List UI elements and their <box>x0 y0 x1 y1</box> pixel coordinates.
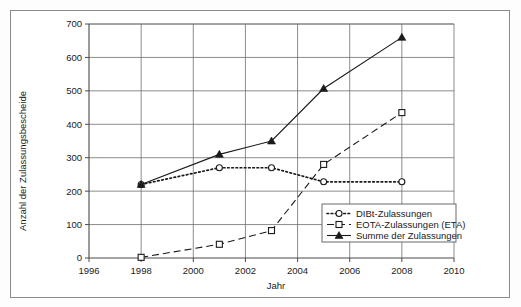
data-point-marker <box>269 165 275 171</box>
y-axis-title: Anzahl der Zulassungsbescheide <box>17 91 28 231</box>
x-axis-tick-labels: 19961998200020022004200620082010 <box>78 265 464 276</box>
x-axis-title: Jahr <box>267 280 285 291</box>
data-point-marker <box>216 165 222 171</box>
legend-entry-label: EOTA-Zulassungen (ETA) <box>356 219 465 230</box>
y-axis-tick-label: 300 <box>66 152 82 163</box>
figure-frame: 0100200300400500600700 19961998200020022… <box>10 10 510 298</box>
data-point-marker <box>321 161 327 167</box>
data-point-marker <box>321 179 327 185</box>
y-axis-tick-label: 100 <box>66 219 82 230</box>
data-point-marker <box>320 85 328 92</box>
series-dibt-zulassungen <box>138 165 405 188</box>
data-point-marker <box>216 241 222 247</box>
y-axis-tick-label: 0 <box>77 252 82 263</box>
legend-marker-icon <box>336 211 342 217</box>
x-axis-tick-label: 1996 <box>78 265 99 276</box>
x-axis-tick-label: 2004 <box>287 265 308 276</box>
y-axis-tick-label: 600 <box>66 52 82 63</box>
x-axis-tick-label: 2002 <box>235 265 256 276</box>
y-axis-tick-label: 700 <box>66 18 82 29</box>
line-chart: 0100200300400500600700 19961998200020022… <box>11 11 508 296</box>
data-point-marker <box>138 254 144 260</box>
x-axis-tick-label: 2008 <box>391 265 412 276</box>
y-axis-tick-label: 200 <box>66 186 82 197</box>
chart-legend[interactable]: DIBt-ZulassungenEOTA-Zulassungen (ETA)Su… <box>322 204 465 242</box>
y-axis-tick-labels: 0100200300400500600700 <box>66 18 82 263</box>
x-axis-tick-label: 2010 <box>443 265 464 276</box>
data-point-marker <box>269 228 275 234</box>
legend-entry-label: DIBt-Zulassungen <box>356 208 432 219</box>
x-axis-tick-label: 2000 <box>183 265 204 276</box>
legend-entry-label: Summe der Zulassungen <box>356 230 462 241</box>
data-point-marker <box>399 110 405 116</box>
y-axis-tick-label: 400 <box>66 119 82 130</box>
data-point-marker <box>399 179 405 185</box>
x-axis-tick-label: 1998 <box>131 265 152 276</box>
data-point-marker <box>398 33 406 40</box>
y-axis-tick-label: 500 <box>66 85 82 96</box>
figure-canvas: 0100200300400500600700 19961998200020022… <box>0 0 521 307</box>
series-line <box>141 37 402 184</box>
legend-marker-icon <box>336 222 342 228</box>
x-axis-tick-label: 2006 <box>339 265 360 276</box>
